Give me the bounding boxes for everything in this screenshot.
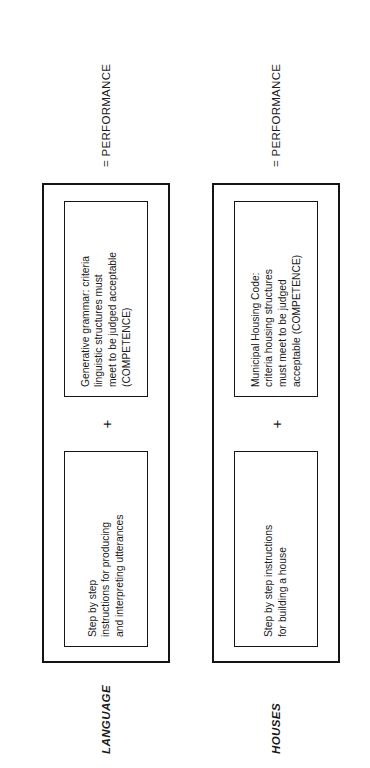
plus-sign-language: + (99, 397, 114, 451)
analogy-diagram: LANGUAGE Step by step instructions for p… (0, 0, 370, 768)
row-label-houses: HOUSES (270, 663, 282, 768)
inner-box-language-instructions: Step by step instructions for producing … (64, 451, 148, 647)
inner-box-houses-instructions: Step by step instructions for building a… (234, 451, 318, 647)
rotated-figure-canvas: LANGUAGE Step by step instructions for p… (0, 0, 370, 768)
inner-box-language-instructions-text: Step by step instructions for producing … (86, 515, 127, 638)
result-label-houses: = PERFORMANCE (270, 64, 282, 183)
inner-box-houses-competence: Municipal Housing Code: criteria housing… (234, 201, 318, 397)
result-label-language: = PERFORMANCE (100, 64, 112, 183)
inner-box-houses-instructions-text: Step by step instructions for building a… (262, 525, 289, 637)
outer-box-language: Step by step instructions for producing … (42, 183, 170, 663)
inner-box-language-competence-text: Generative grammar: criteria linguistic … (79, 252, 133, 387)
row-label-language: LANGUAGE (100, 663, 112, 768)
inner-box-houses-competence-text: Municipal Housing Code: criteria housing… (249, 255, 303, 387)
outer-box-houses: Step by step instructions for building a… (212, 183, 340, 663)
analogy-row-houses: HOUSES Step by step instructions for bui… (201, 0, 351, 768)
analogy-row-language: LANGUAGE Step by step instructions for p… (31, 0, 181, 768)
plus-sign-houses: + (269, 397, 284, 451)
inner-box-language-competence: Generative grammar: criteria linguistic … (64, 201, 148, 397)
